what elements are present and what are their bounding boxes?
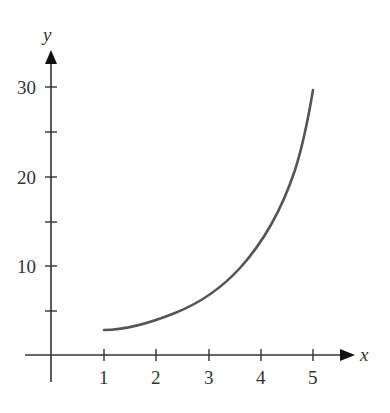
x-axis-label: x (360, 345, 368, 364)
y-axis-arrow-icon (45, 50, 57, 64)
exponential-curve (104, 90, 313, 330)
x-tick-label-3: 3 (204, 368, 214, 387)
x-tick-label-1: 1 (99, 368, 109, 387)
chart-canvas (0, 0, 390, 413)
y-tick-label-30: 30 (17, 78, 36, 97)
y-axis-label: y (43, 25, 51, 44)
x-axis-arrow-icon (340, 349, 355, 361)
x-tick-label-4: 4 (256, 368, 266, 387)
y-tick-label-10: 10 (17, 257, 36, 276)
y-tick-label-20: 20 (17, 168, 36, 187)
x-tick-label-2: 2 (151, 368, 161, 387)
x-tick-label-5: 5 (308, 368, 318, 387)
